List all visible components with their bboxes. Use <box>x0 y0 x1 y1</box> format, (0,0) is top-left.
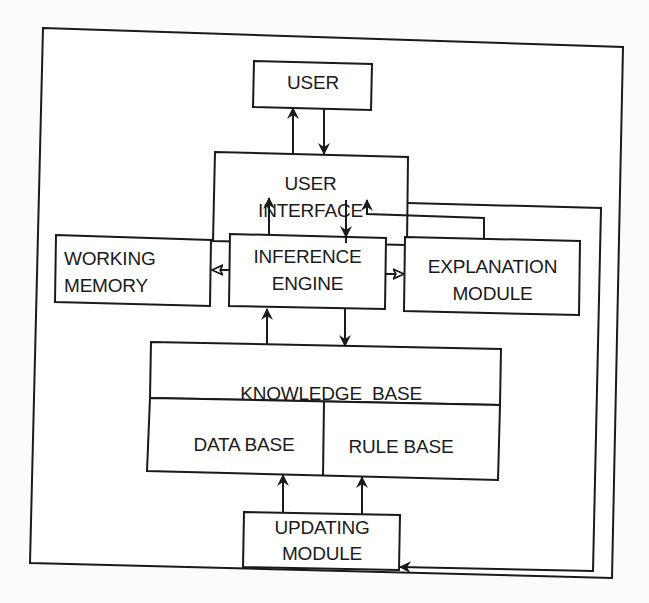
user-interface-line1: USER <box>213 173 408 195</box>
working-memory-line1: WORKING <box>64 248 204 270</box>
updating-module-line2: MODULE <box>244 543 400 565</box>
inference-engine-label: INFERENCE ENGINE <box>230 246 385 295</box>
user-interface-label: USER INTERFACE <box>213 173 408 222</box>
rule-base-label: RULE BASE <box>326 436 476 458</box>
explanation-module-label: EXPLANATION MODULE <box>405 256 580 305</box>
user-text: USER <box>287 72 339 93</box>
data-rule-divider <box>323 402 324 476</box>
explanation-module-line2: MODULE <box>405 283 580 305</box>
inference-engine-line2: ENGINE <box>230 273 385 295</box>
working-memory-line2: MEMORY <box>64 275 204 297</box>
updating-module-line1: UPDATING <box>244 517 400 539</box>
user-label: USER <box>254 72 372 94</box>
knowledge-base-label: KNOWLEDGE BASE <box>151 361 501 405</box>
explanation-module-line1: EXPLANATION <box>405 256 580 278</box>
user-interface-line2: INTERFACE <box>213 200 408 222</box>
inference-engine-line1: INFERENCE <box>230 246 385 268</box>
data-base-text: DATA BASE <box>194 434 295 455</box>
rule-base-text: RULE BASE <box>349 436 454 457</box>
working-memory-label: WORKING MEMORY <box>64 248 204 297</box>
knowledge-base-text: KNOWLEDGE BASE <box>240 383 422 404</box>
data-base-label: DATA BASE <box>166 434 322 456</box>
updating-module-label: UPDATING MODULE <box>244 517 400 565</box>
